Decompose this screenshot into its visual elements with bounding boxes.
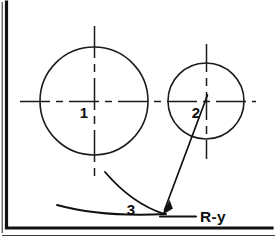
- drawing-canvas: 1 2 3 R-y: [0, 0, 275, 241]
- label-arc-three: 3: [127, 201, 135, 218]
- label-circle-one: 1: [80, 104, 88, 121]
- label-dimension-r-minus-y: R-y: [200, 208, 226, 225]
- technical-drawing-figure: 1 2 3 R-y: [0, 0, 275, 241]
- label-circle-two: 2: [192, 104, 200, 121]
- canvas-background: [0, 0, 275, 241]
